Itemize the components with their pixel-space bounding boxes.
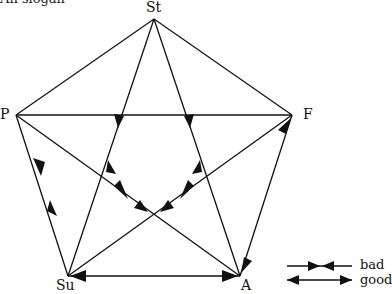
node-su: Su bbox=[56, 277, 75, 293]
legend-good-label: good bbox=[360, 272, 392, 287]
edge-p-a bbox=[16, 115, 240, 276]
legend-bad-arrow-2 bbox=[322, 261, 334, 271]
arrow-f-su-inner bbox=[180, 180, 194, 199]
edge-st-f bbox=[154, 19, 292, 115]
arrow-p-a-inner bbox=[114, 180, 128, 199]
edge-st-a bbox=[154, 19, 240, 276]
node-st: St bbox=[146, 0, 161, 15]
node-p: P bbox=[0, 106, 9, 122]
legend-bad-arrow-1 bbox=[308, 261, 320, 271]
arrow-a-st-inner bbox=[192, 160, 202, 174]
arrowheads bbox=[33, 114, 291, 282]
edge-f-a bbox=[240, 115, 292, 276]
arrow-a-end-2 bbox=[241, 257, 252, 273]
arrow-su-st-inner bbox=[106, 160, 116, 174]
node-a: A bbox=[241, 277, 251, 293]
edge-f-su bbox=[68, 115, 292, 276]
edge-st-su bbox=[68, 19, 154, 276]
arrow-st-a-inner bbox=[184, 114, 194, 128]
edge-st-p bbox=[16, 19, 154, 115]
edge-p-su bbox=[16, 115, 68, 276]
node-f: F bbox=[303, 106, 313, 122]
legend-bad-label: bad bbox=[360, 257, 384, 272]
arrow-a-end bbox=[222, 270, 238, 282]
legend-good-arrow-2 bbox=[340, 275, 352, 285]
legend-good-arrow-1 bbox=[287, 275, 299, 285]
arrow-st-su-inner bbox=[114, 114, 124, 128]
